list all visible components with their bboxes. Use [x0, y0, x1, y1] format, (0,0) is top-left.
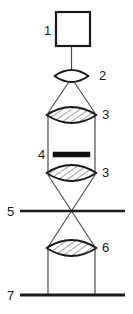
projection-lens[interactable] — [47, 240, 97, 256]
light-source-label: 1 — [44, 23, 51, 38]
collector-lens[interactable] — [55, 70, 89, 82]
component-labels-group: 12343567 — [7, 23, 109, 303]
condenser-lens-upper[interactable] — [47, 107, 97, 123]
light-source-body — [56, 12, 90, 46]
collector-lens-label: 2 — [99, 68, 106, 83]
optical-components-group — [20, 12, 125, 295]
optical-ray-diagram: 12343567 — [0, 0, 133, 314]
collector-lens-body — [55, 70, 89, 82]
condenser-lens-lower-body — [47, 165, 97, 181]
projection-lens-label: 6 — [102, 240, 109, 255]
specimen-bar-label: 4 — [38, 147, 45, 162]
condenser-lens-upper-label: 3 — [102, 107, 109, 122]
light-source[interactable] — [56, 12, 90, 46]
specimen-bar-body — [53, 152, 90, 157]
condenser-lens-lower-label: 3 — [102, 165, 109, 180]
condenser-lens-upper-body — [47, 107, 97, 123]
optical-diagram-canvas: 12343567 — [0, 0, 133, 314]
condenser-lens-lower[interactable] — [47, 165, 97, 181]
intermediate-plane-label: 5 — [7, 204, 14, 219]
image-plane-label: 7 — [7, 288, 14, 303]
projection-lens-body — [47, 240, 97, 256]
specimen-bar[interactable] — [53, 152, 90, 157]
